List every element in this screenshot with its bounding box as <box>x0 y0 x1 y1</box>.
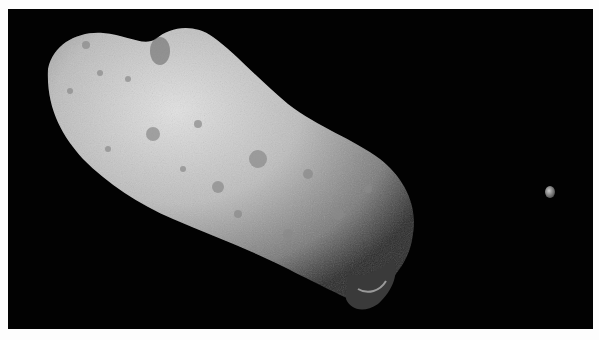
moon <box>545 186 555 198</box>
space-photo <box>8 9 593 329</box>
photo-frame <box>8 9 593 329</box>
asteroid <box>48 28 414 309</box>
